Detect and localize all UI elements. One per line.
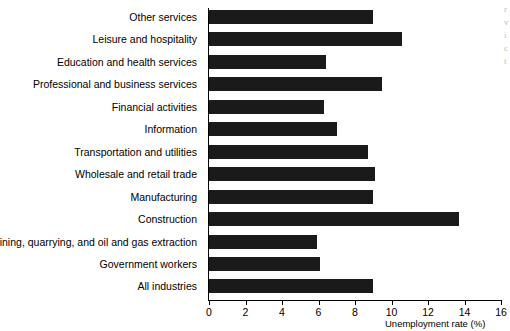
x-axis-tick [465, 300, 466, 305]
bar [209, 10, 373, 24]
x-axis-tick-label: 14 [459, 306, 471, 318]
x-axis-tick [319, 300, 320, 305]
x-axis-tick [209, 300, 210, 305]
x-axis-tick [501, 300, 502, 305]
category-label: Leisure and hospitality [93, 32, 197, 46]
x-axis-tick-label: 2 [243, 306, 249, 318]
category-label: Financial activities [112, 100, 197, 114]
bar [209, 55, 326, 69]
margin-text-fragment: t [504, 56, 510, 66]
x-axis-tick [428, 300, 429, 305]
bar [209, 212, 459, 226]
category-label: Government workers [100, 257, 197, 271]
margin-text-fragment: r [504, 4, 510, 14]
bar [209, 167, 375, 181]
x-axis-tick [392, 300, 393, 305]
category-label: Education and health services [57, 55, 197, 69]
category-label: All industries [137, 279, 197, 293]
margin-text-fragment: v [504, 17, 510, 27]
x-axis-tick [246, 300, 247, 305]
category-label: Manufacturing [130, 190, 197, 204]
y-axis-line [208, 8, 209, 300]
bar [209, 77, 382, 91]
x-axis-tick-label: 8 [352, 306, 358, 318]
category-label: Professional and business services [33, 77, 197, 91]
bar [209, 32, 402, 46]
bar [209, 190, 373, 204]
x-axis-tick-label: 0 [206, 306, 212, 318]
x-axis-tick-label: 12 [422, 306, 434, 318]
plot-area [209, 0, 501, 300]
category-label: Information [144, 122, 197, 136]
bar [209, 100, 324, 114]
bar [209, 145, 368, 159]
category-label: Other services [129, 10, 197, 24]
x-axis-tick-label: 16 [495, 306, 507, 318]
x-axis-tick [355, 300, 356, 305]
x-axis-title: Unemployment rate (%) [385, 318, 485, 329]
category-label: Mining, quarrying, and oil and gas extra… [0, 235, 197, 249]
bar [209, 235, 317, 249]
x-axis-tick-label: 10 [386, 306, 398, 318]
x-axis-tick [282, 300, 283, 305]
x-axis-tick-label: 4 [279, 306, 285, 318]
bar-chart: Other servicesLeisure and hospitalityEdu… [0, 0, 510, 331]
x-axis-tick-label: 6 [316, 306, 322, 318]
category-label: Transportation and utilities [74, 145, 197, 159]
bar [209, 257, 320, 271]
category-label: Wholesale and retail trade [75, 167, 197, 181]
bar [209, 279, 373, 293]
category-label: Construction [138, 212, 197, 226]
category-axis-labels: Other servicesLeisure and hospitalityEdu… [0, 0, 203, 300]
margin-text-fragment: i [504, 30, 510, 40]
margin-text-fragment: c [504, 43, 510, 53]
bar [209, 122, 337, 136]
